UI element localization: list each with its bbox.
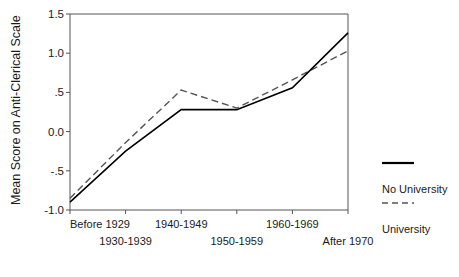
chart-root: Mean Score on Anti-Clerical Scale 1.5 1.… bbox=[0, 0, 459, 277]
y-tick-label: -.5 bbox=[51, 165, 64, 177]
line-chart-svg: Mean Score on Anti-Clerical Scale 1.5 1.… bbox=[0, 0, 459, 277]
y-tick-labels: 1.5 1.0 .5 0.0 -.5 -1.0 bbox=[44, 8, 64, 216]
legend-label-university: University bbox=[382, 223, 431, 235]
y-tick-label: 0.0 bbox=[48, 126, 64, 138]
x-category-labels: Before 1929 1930-1939 1940-1949 1950-195… bbox=[70, 218, 373, 247]
chart-legend: No University University bbox=[382, 163, 448, 235]
x-tick-label-1950-1959: 1950-1959 bbox=[210, 235, 263, 247]
x-tick-marks bbox=[70, 210, 348, 214]
y-tick-label: .5 bbox=[54, 86, 64, 98]
y-tick-marks bbox=[66, 14, 70, 210]
y-tick-label: 1.0 bbox=[48, 47, 64, 59]
legend-label-no-university: No University bbox=[382, 183, 448, 195]
x-tick-label-1940-1949: 1940-1949 bbox=[155, 218, 208, 230]
series-line-no-university bbox=[70, 33, 348, 202]
data-series-group bbox=[70, 33, 348, 202]
plot-frame bbox=[70, 14, 348, 210]
x-tick-label-after-1970: After 1970 bbox=[323, 235, 374, 247]
y-tick-label: 1.5 bbox=[48, 8, 64, 20]
x-tick-label-before-1929: Before 1929 bbox=[70, 218, 130, 230]
chart-canvas: Mean Score on Anti-Clerical Scale 1.5 1.… bbox=[0, 0, 459, 277]
y-tick-label: -1.0 bbox=[44, 204, 64, 216]
y-axis-title: Mean Score on Anti-Clerical Scale bbox=[9, 15, 23, 205]
x-tick-label-1960-1969: 1960-1969 bbox=[266, 218, 319, 230]
x-tick-label-1930-1939: 1930-1939 bbox=[99, 235, 152, 247]
